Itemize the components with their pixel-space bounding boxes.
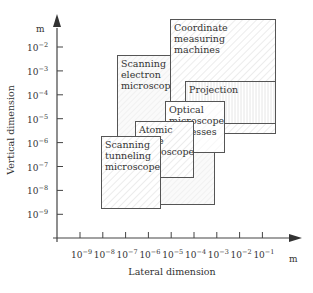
x-tick-label: 10−6 xyxy=(139,248,160,260)
x-tick-label: 10−5 xyxy=(162,248,183,260)
region-label: machines xyxy=(174,44,220,55)
y-axis-title: Vertical dimension xyxy=(5,85,16,176)
y-tick-label: 10−2 xyxy=(27,41,48,53)
region-label: measuring xyxy=(174,33,225,44)
x-axis-arrow-icon xyxy=(289,234,302,242)
x-tick-label: 10−8 xyxy=(94,248,115,260)
x-tick-label: 10−9 xyxy=(71,248,92,260)
region-label: tunneling xyxy=(105,150,151,161)
region-label: Atomic xyxy=(138,124,173,135)
y-tick-label: 10−9 xyxy=(27,208,48,220)
x-tick-label: 10−7 xyxy=(117,248,138,260)
y-tick-label: 10−4 xyxy=(27,89,48,101)
x-ticks: 10−910−810−710−610−510−410−310−210−1 xyxy=(71,232,274,260)
x-tick-label: 10−1 xyxy=(253,248,274,260)
x-axis-title: Lateral dimension xyxy=(128,266,215,277)
size-range-diagram: ScanningelectronmicroscopeCoordinatemeas… xyxy=(0,0,313,293)
region-stm: Scanningtunnelingmicroscope xyxy=(102,137,161,209)
region-boxes: ScanningelectronmicroscopeCoordinatemeas… xyxy=(102,20,276,209)
x-tick-label: 10−4 xyxy=(185,248,206,260)
region-label: microscope xyxy=(121,80,177,91)
region-label: Scanning xyxy=(105,139,150,150)
region-label: electron xyxy=(121,69,161,80)
y-tick-label: 10−3 xyxy=(27,65,48,77)
y-unit-label: m xyxy=(36,24,45,34)
region-label: Projection xyxy=(189,84,238,95)
y-axis-arrow-icon xyxy=(53,14,61,27)
region-label: Coordinate xyxy=(174,22,228,33)
y-tick-label: 10−8 xyxy=(27,184,48,196)
region-label: Optical xyxy=(169,104,204,115)
x-tick-label: 10−2 xyxy=(231,248,252,260)
y-tick-label: 10−7 xyxy=(27,161,48,173)
y-tick-label: 10−5 xyxy=(27,113,48,125)
x-tick-label: 10−3 xyxy=(208,248,229,260)
x-unit-label: m xyxy=(289,254,298,264)
region-label: microscope xyxy=(105,161,161,172)
y-tick-label: 10−6 xyxy=(27,137,48,149)
region-label: Scanning xyxy=(121,58,166,69)
